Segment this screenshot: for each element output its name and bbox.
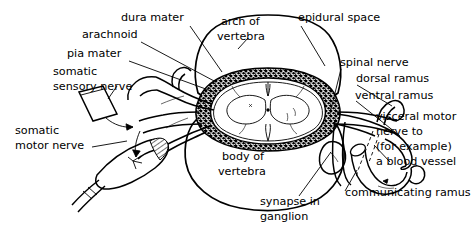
label-dorsal-ramus: dorsal ramus bbox=[356, 72, 429, 85]
spinal-cord-diagram: dura mater arachnoid pia mater somatic s… bbox=[0, 0, 476, 233]
label-epidural-space: epidural space bbox=[298, 11, 380, 24]
label-synapse-in-ganglion-line1: synapse in bbox=[260, 195, 320, 208]
label-spinal-nerve: spinal nerve bbox=[340, 56, 409, 69]
label-communicating-ramus: communicating ramus bbox=[345, 186, 471, 199]
label-visceral-motor-nerve-line4: a blood vessel bbox=[376, 155, 456, 168]
label-arch-of-vertebra-line2: vertebra bbox=[217, 30, 265, 43]
label-visceral-motor-nerve-line3: (for example) bbox=[376, 140, 452, 153]
label-ventral-ramus: ventral ramus bbox=[355, 89, 434, 102]
label-synapse-in-ganglion-line2: ganglion bbox=[260, 210, 308, 223]
label-body-of-vertebra-line2: vertebra bbox=[218, 165, 266, 178]
label-somatic-motor-nerve-line1: somatic bbox=[15, 124, 59, 137]
label-visceral-motor-nerve-line1: visceral motor bbox=[376, 110, 457, 123]
label-arachnoid: arachnoid bbox=[82, 28, 138, 41]
label-visceral-motor-nerve-line2: nerve to bbox=[376, 125, 423, 138]
label-somatic-sensory-nerve-line1: somatic bbox=[53, 65, 97, 78]
label-body-of-vertebra-line1: body of bbox=[222, 150, 265, 163]
label-somatic-motor-nerve-line2: motor nerve bbox=[15, 139, 84, 152]
label-dura-mater: dura mater bbox=[121, 11, 184, 24]
muscle bbox=[72, 131, 168, 212]
label-somatic-sensory-nerve-line2: sensory nerve bbox=[53, 80, 132, 93]
label-arch-of-vertebra-line1: arch of bbox=[221, 15, 261, 28]
label-pia-mater: pia mater bbox=[67, 47, 122, 60]
